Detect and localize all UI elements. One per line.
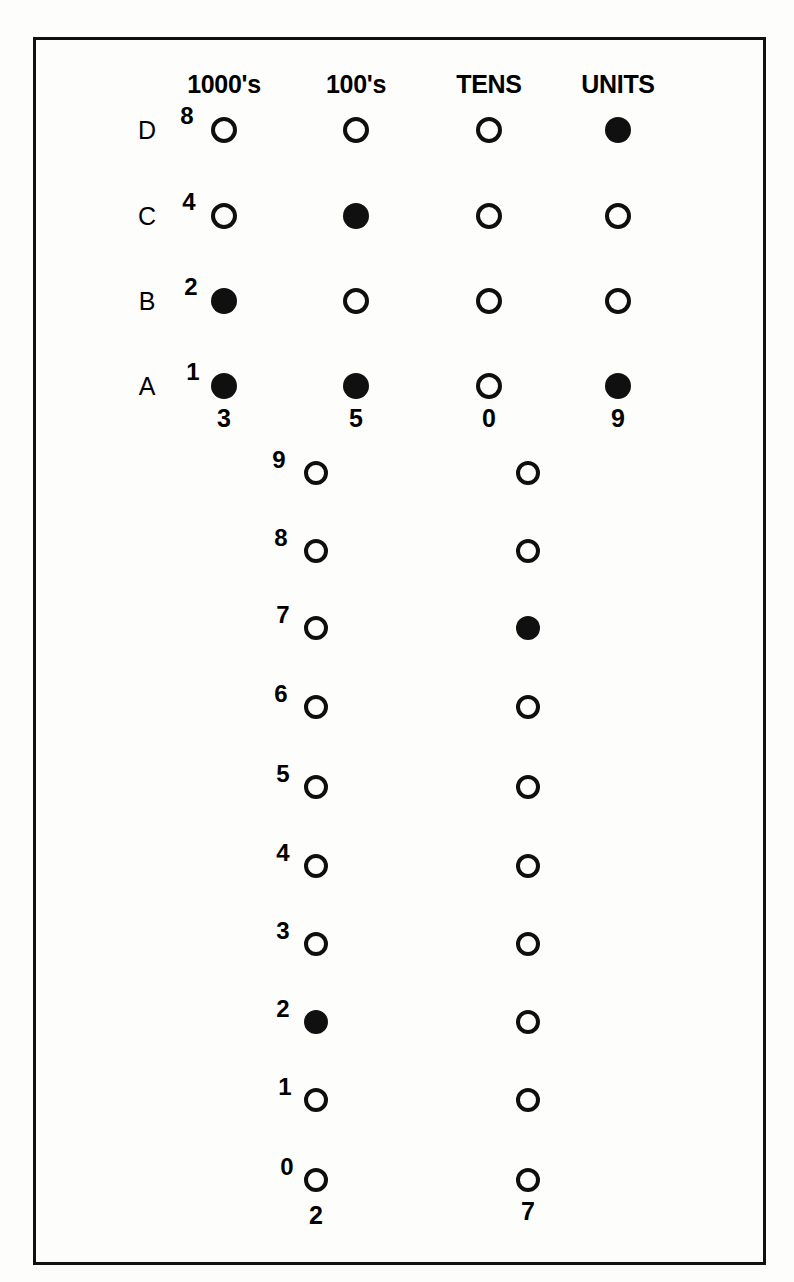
lower-bit-tens-4-open[interactable] xyxy=(516,854,540,878)
lower-bit-100s-7-open[interactable] xyxy=(304,616,328,640)
bit-b-units-open[interactable] xyxy=(605,288,631,314)
lower-bit-100s-0-open[interactable] xyxy=(304,1168,328,1192)
scale-digit-8: 8 xyxy=(274,526,287,550)
row-weight-c: 4 xyxy=(182,190,195,214)
lower-bit-tens-0-open[interactable] xyxy=(516,1168,540,1192)
bit-b-100s-open[interactable] xyxy=(343,288,369,314)
upper-result-digit-0: 3 xyxy=(217,406,231,431)
column-header-1000s: 1000's xyxy=(187,72,261,97)
scale-digit-7: 7 xyxy=(276,603,289,627)
lower-bit-100s-1-open[interactable] xyxy=(304,1088,328,1112)
row-weight-b: 2 xyxy=(184,275,197,299)
upper-result-digit-3: 9 xyxy=(611,406,625,431)
scale-digit-3: 3 xyxy=(276,919,289,943)
row-letter-a: A xyxy=(139,374,156,399)
row-letter-d: D xyxy=(138,118,156,143)
lower-bit-100s-9-open[interactable] xyxy=(304,461,328,485)
scale-digit-9: 9 xyxy=(272,448,285,472)
lower-bit-tens-9-open[interactable] xyxy=(516,461,540,485)
upper-result-digit-2: 0 xyxy=(482,406,496,431)
scale-digit-2: 2 xyxy=(276,997,289,1021)
lower-bit-100s-2-filled[interactable] xyxy=(304,1010,328,1034)
bit-d-tens-open[interactable] xyxy=(476,117,502,143)
scale-digit-6: 6 xyxy=(274,682,287,706)
bit-c-1000s-open[interactable] xyxy=(211,203,237,229)
row-weight-d: 8 xyxy=(180,104,193,128)
lower-bit-tens-3-open[interactable] xyxy=(516,932,540,956)
scale-digit-1: 1 xyxy=(278,1075,291,1099)
lower-bit-100s-5-open[interactable] xyxy=(304,775,328,799)
bit-a-tens-open[interactable] xyxy=(476,373,502,399)
scale-digit-5: 5 xyxy=(276,762,289,786)
column-header-tens: TENS xyxy=(456,72,521,97)
lower-bit-100s-4-open[interactable] xyxy=(304,854,328,878)
lower-result-digit-1: 7 xyxy=(521,1199,535,1224)
scale-digit-0: 0 xyxy=(280,1155,293,1179)
bit-d-1000s-open[interactable] xyxy=(211,117,237,143)
column-header-units: UNITS xyxy=(581,72,655,97)
lower-bit-tens-6-open[interactable] xyxy=(516,695,540,719)
bit-a-100s-filled[interactable] xyxy=(343,373,369,399)
bit-c-tens-open[interactable] xyxy=(476,203,502,229)
bit-d-units-filled[interactable] xyxy=(605,117,631,143)
upper-result-digit-1: 5 xyxy=(349,406,363,431)
bit-a-1000s-filled[interactable] xyxy=(211,373,237,399)
lower-result-digit-0: 2 xyxy=(309,1203,323,1228)
lower-bit-tens-8-open[interactable] xyxy=(516,539,540,563)
lower-bit-tens-2-open[interactable] xyxy=(516,1010,540,1034)
lower-bit-100s-3-open[interactable] xyxy=(304,932,328,956)
lower-bit-100s-6-open[interactable] xyxy=(304,695,328,719)
lower-bit-tens-5-open[interactable] xyxy=(516,775,540,799)
bit-b-1000s-filled[interactable] xyxy=(211,288,237,314)
row-letter-b: B xyxy=(139,289,156,314)
row-weight-a: 1 xyxy=(186,360,199,384)
column-header-100s: 100's xyxy=(326,72,386,97)
bit-b-tens-open[interactable] xyxy=(476,288,502,314)
bit-c-units-open[interactable] xyxy=(605,203,631,229)
bit-c-100s-filled[interactable] xyxy=(343,203,369,229)
lower-bit-tens-1-open[interactable] xyxy=(516,1088,540,1112)
row-letter-c: C xyxy=(138,204,156,229)
bit-a-units-filled[interactable] xyxy=(605,373,631,399)
lower-bit-100s-8-open[interactable] xyxy=(304,539,328,563)
bit-d-100s-open[interactable] xyxy=(343,117,369,143)
scale-digit-4: 4 xyxy=(276,841,289,865)
lower-bit-tens-7-filled[interactable] xyxy=(516,616,540,640)
